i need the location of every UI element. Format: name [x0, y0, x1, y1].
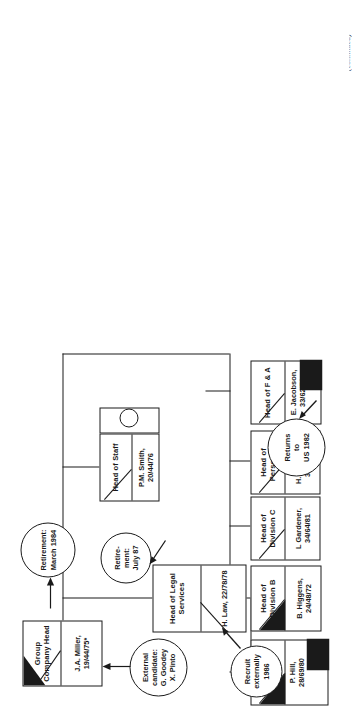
person-name: P. Hill,: [288, 661, 297, 683]
node-head-of-division-b[interactable]: Head of Division B B. Higgens, 24/48/72: [250, 565, 321, 631]
callout-line2: candidate:: [149, 649, 158, 686]
node-title: Head of Division B: [251, 566, 285, 630]
node-head-of-staff[interactable]: Head of Staff P.M. Smith, 20/44/76: [99, 433, 159, 501]
person-codes: 33/62/76: [298, 378, 307, 407]
node-person: P. Hill, 28/69/80: [285, 640, 329, 704]
node-head-of-f-and-a[interactable]: Head of F & A E. Jacobson, 33/62/76: [250, 360, 321, 424]
person-codes: 20/44/76: [146, 453, 155, 482]
connector-riser-personnel: [229, 460, 250, 461]
callout-retirement-july-87[interactable]: Retire- ment: July 87: [100, 532, 151, 583]
node-title: Group Company Head: [23, 621, 61, 685]
callout-line4: X. Pinto: [167, 653, 176, 681]
callout-line1: Recruit: [242, 658, 251, 683]
arrow-external-candidate-icon: [100, 660, 132, 672]
node-title-line2: Services: [177, 582, 186, 614]
callout-line3: G. Goodey: [158, 648, 167, 685]
connector-spine-vertical: [62, 353, 229, 354]
node-person: E. Jacobson, 33/62/76: [285, 361, 322, 423]
callout-retirement-march-1984[interactable]: Retirement: March 1984: [20, 522, 75, 577]
node-title: Head of Legal Services: [153, 565, 201, 631]
node-person: L Gardener, 34/64/81: [285, 497, 321, 559]
callout-line2: to: [291, 444, 300, 451]
callout-line1: External: [140, 652, 149, 681]
node-person: B. Higgens, 24/48/72: [285, 566, 322, 630]
node-head-of-staff-marker-cell: [99, 407, 159, 433]
callout-line1: Returns: [282, 433, 291, 461]
callout-external-candidate[interactable]: External candidate: G. Goodey X. Pinto: [129, 638, 187, 696]
node-group-company-head[interactable]: Group Company Head J.A. Miller, 19/44/75…: [22, 620, 102, 686]
node-person: H. Law, 22/78/78: [201, 565, 247, 631]
person-codes: 28/69/80: [297, 658, 306, 687]
callout-line1: Retire-: [112, 546, 121, 569]
node-title: Head of Staff: [100, 434, 132, 500]
node-title: Head of F & A: [251, 361, 285, 423]
callout-line2: March 1984: [48, 529, 57, 569]
callout-line3: July 87: [130, 545, 139, 570]
node-person: J.A. Miller, 19/44/75*: [61, 621, 103, 685]
callout-line2: externally: [251, 654, 260, 689]
node-title-line1: Head of: [259, 448, 268, 477]
node-head-of-division-c[interactable]: Head of Division C L Gardener, 34/64/81: [250, 496, 320, 560]
person-name: E. Jacobson,: [289, 369, 298, 415]
node-title: Head of Division C: [251, 497, 285, 559]
connector-to-head-of-staff: [62, 466, 99, 467]
callout-returns-to-us-1982[interactable]: Returns to US 1982: [267, 418, 325, 476]
connector-riser-f-and-a: [205, 390, 230, 391]
callout-line3: US 1982: [301, 433, 310, 462]
callout-line2: ment:: [121, 547, 130, 567]
person-codes: 34/64/81: [303, 514, 312, 543]
connector-riser-division-c: [229, 525, 250, 526]
node-title-line1: Head of Legal: [168, 572, 177, 623]
callout-line3: 1986: [261, 663, 270, 679]
connector-to-legal-services: [62, 597, 152, 598]
open-circle-icon: [119, 408, 138, 427]
connector-trunk-horizontal: [62, 353, 63, 620]
callout-line1: Retirement:: [38, 529, 47, 570]
person-name: B. Higgens,: [295, 578, 304, 619]
node-head-of-legal-services[interactable]: Head of Legal Services H. Law, 22/78/78: [152, 564, 246, 632]
node-person: P.M. Smith, 20/44/76: [132, 434, 160, 500]
callout-recruit-externally-1986[interactable]: Recruit externally 1986: [230, 645, 282, 697]
person-codes: 24/48/72: [304, 584, 313, 613]
